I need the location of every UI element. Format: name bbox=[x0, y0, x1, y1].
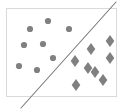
plot-border-rectangle bbox=[7, 9, 117, 97]
scatter-point-circle bbox=[34, 67, 40, 73]
plot-canvas bbox=[0, 0, 127, 112]
scatter-figure bbox=[0, 0, 127, 112]
scatter-point-circle bbox=[16, 63, 22, 69]
scatter-point-circle bbox=[66, 26, 72, 32]
scatter-point-circle bbox=[21, 42, 27, 48]
scatter-point-circle bbox=[50, 55, 56, 61]
scatter-point-circle bbox=[45, 18, 51, 24]
scatter-point-circle bbox=[40, 41, 46, 47]
scatter-point-circle bbox=[27, 26, 33, 32]
